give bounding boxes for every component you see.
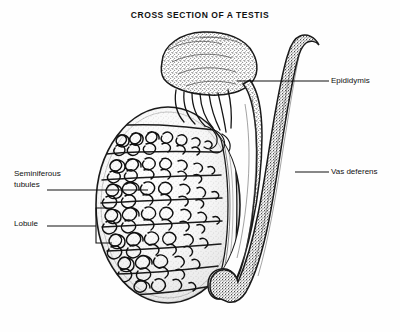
label-seminiferous-line2: tubules [14, 180, 61, 191]
label-epididymis: Epididymis [331, 76, 370, 87]
figure-container: CROSS SECTION OF A TESTIS [0, 0, 400, 332]
label-epididymis-text: Epididymis [331, 76, 370, 87]
label-vas-deferens-text: Vas deferens [331, 167, 378, 178]
label-lobule: Lobule [14, 219, 38, 230]
label-seminiferous-line1: Seminiferous [14, 169, 61, 180]
label-seminiferous-tubules: Seminiferous tubules [14, 169, 61, 190]
label-lobule-text: Lobule [14, 219, 38, 230]
anatomy-diagram [0, 0, 400, 332]
label-vas-deferens: Vas deferens [331, 167, 378, 178]
